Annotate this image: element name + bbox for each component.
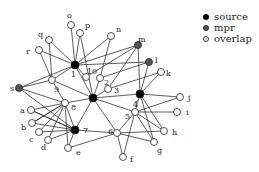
source-dot-icon [203,14,209,20]
node-label-c: c [29,135,34,144]
node-label-4: 4 [133,100,138,109]
edge-C-6 [93,98,117,133]
node-b-overlap [29,120,36,127]
edge-1-p [75,33,80,65]
node-9-overlap [49,77,56,84]
node-label-a: a [20,106,25,115]
node-label-s: s [10,84,14,93]
node-g-overlap [151,139,158,146]
node-label-r: r [26,47,30,56]
node-label-e: e [76,148,81,157]
node-labels: 147mlsopqrnkjihgfedcba89102356 [10,11,190,164]
legend-item-source: source [203,11,252,22]
node-label-5: 5 [125,112,130,121]
node-label-n: n [116,25,121,34]
edge-6-h [117,131,164,133]
edge-n-2 [100,36,111,78]
node-7-source [71,126,79,134]
node-p-overlap [77,30,84,37]
node-label-j: j [187,93,190,102]
node-q-overlap [46,37,53,44]
node-label-6: 6 [108,127,113,136]
legend-item-overlap: overlap [203,33,252,44]
node-2-overlap [97,75,104,82]
edge-p-C [80,33,93,98]
edge-1-n [75,36,111,65]
node-s-mpr [16,85,23,92]
legend-label: overlap [214,33,252,44]
edges [19,25,180,157]
nodes [16,22,184,161]
edge-C-5 [93,98,135,112]
node-label-m: m [138,35,146,44]
node-label-p: p [85,21,90,30]
node-label-i: i [186,108,189,117]
edge-4-j [140,94,180,97]
node-o-overlap [68,22,75,29]
node-6-overlap [114,130,121,137]
edge-1-q [49,40,75,65]
mpr-dot-icon [203,25,209,31]
node-label-l: l [155,56,158,65]
node-label-f: f [130,155,134,164]
legend-item-mpr: mpr [203,22,252,33]
node-j-overlap [177,94,184,101]
node-h-overlap [161,128,168,135]
node-c-overlap [36,129,43,136]
node-r-overlap [36,47,43,54]
edge-4-g [140,94,154,142]
edge-5-h [135,112,164,131]
legend-label: source [214,11,248,22]
node-label-k: k [166,69,171,78]
edge-5-g [135,112,154,142]
node-label-8: 8 [71,103,76,112]
node-label-1: 1 [71,70,76,79]
node-a-overlap [28,107,35,114]
node-center-source [89,94,97,102]
node-1-source [71,61,79,69]
node-n-overlap [108,33,115,40]
node-label-o: o [67,11,72,20]
edge-6-g [117,133,154,142]
node-8-overlap [62,100,69,107]
edge-m-4 [138,45,140,94]
node-label-10: 10 [87,67,97,76]
edge-1-o [71,25,75,65]
node-5-overlap [132,109,139,116]
node-label-2: 2 [104,78,109,87]
legend: source mpr overlap [203,11,252,44]
node-e-overlap [65,145,72,152]
node-i-overlap [174,109,181,116]
node-l-mpr [146,59,153,66]
node-label-d: d [41,143,46,152]
node-label-9: 9 [54,85,59,94]
node-label-q: q [38,30,43,39]
node-label-b: b [21,123,26,132]
node-label-7: 7 [83,126,88,135]
node-label-3: 3 [114,86,119,95]
node-label-g: g [157,146,162,155]
legend-label: mpr [214,22,235,33]
node-4-source [136,90,144,98]
node-label-h: h [172,128,177,137]
overlap-dot-icon [203,36,209,42]
node-f-overlap [120,154,127,161]
node-k-overlap [158,69,165,76]
